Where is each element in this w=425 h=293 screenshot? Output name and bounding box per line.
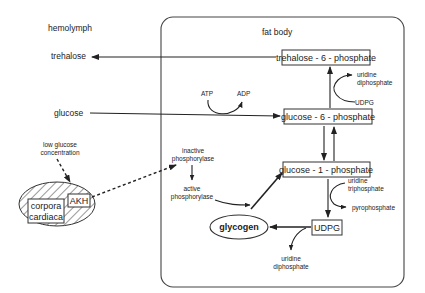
trehalose-6-phosphate-label: trehalose - 6 - phosphate	[276, 53, 376, 63]
corpora-cardiaca-line1: corpora	[31, 201, 62, 211]
inactive-phosphorylase-line2: phosphorylase	[172, 155, 215, 163]
glycogen-to-g1p-arrow	[251, 173, 282, 209]
glucose-1-phosphate-label: glucose - 1 - phosphate	[279, 165, 373, 175]
glucose-label: glucose	[54, 108, 84, 118]
low-glucose-line2: concentration	[40, 149, 79, 156]
active-phosphorylase-line1: active	[184, 185, 201, 192]
akh-signal-dashed-arrow	[92, 165, 176, 197]
pyrophosphate-label: pyrophosphate	[352, 204, 395, 212]
fat-body-label: fat body	[262, 27, 293, 37]
adp-label: ADP	[237, 90, 250, 97]
hemolymph-label: hemolymph	[48, 23, 92, 33]
inactive-phosphorylase-line1: inactive	[182, 147, 204, 154]
corpora-cardiaca-line2: cardiaca	[29, 212, 63, 222]
udpg-input-label: UDPG	[355, 99, 374, 106]
phosphorylase-to-glycogen-arrow	[215, 200, 250, 205]
udpg-box-label: UDPG	[314, 223, 340, 233]
udp-release-curve-arrow	[291, 228, 306, 250]
utp-line2: triphosphate	[348, 185, 384, 193]
atp-label: ATP	[201, 90, 213, 97]
glucose-uptake-arrow	[90, 113, 280, 116]
udp-bottom-line1: uridine	[281, 255, 301, 262]
trehalose-synthesis-diagram: hemolymph fat body trehalose trehalose -…	[0, 0, 425, 293]
udp-top-line1: uridine	[357, 71, 377, 78]
akh-label: AKH	[70, 196, 89, 206]
udp-bottom-line2: diphosphate	[273, 263, 309, 271]
udpg-udp-curve-arrow	[334, 75, 355, 102]
active-phosphorylase-line2: phosphorylase	[171, 193, 214, 201]
glucose-6-phosphate-label: glucose - 6 - phosphate	[281, 112, 375, 122]
utp-pyrophosphate-curve-arrow	[330, 183, 346, 207]
low-glucose-line1: low glucose	[43, 141, 77, 149]
stimulus-dashed-arrow	[57, 159, 70, 182]
udp-top-line2: diphosphate	[357, 79, 393, 87]
trehalose-label: trehalose	[51, 51, 86, 61]
glycogen-label: glycogen	[219, 222, 259, 232]
atp-adp-curve-arrow	[208, 100, 242, 114]
utp-line1: uridine	[348, 177, 368, 184]
